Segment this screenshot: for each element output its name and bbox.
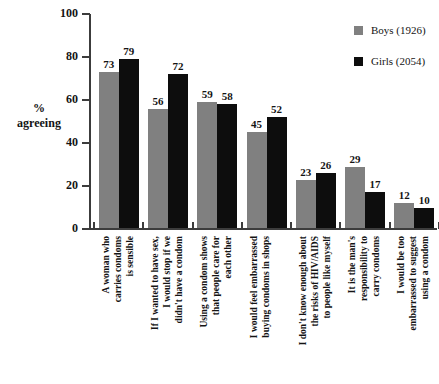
bar-value-label: 79 [115,46,143,57]
bar [267,117,287,229]
bar [394,203,414,229]
y-tick-mark [82,185,90,187]
bar [148,109,168,229]
bar [119,59,139,229]
y-tick-mark [82,99,90,101]
x-tick-mark [389,222,391,229]
y-axis-title: % agreeing [2,101,76,131]
bar [345,167,365,229]
y-tick-label: 0 [44,222,78,234]
x-category-label: I would be too embarrassed to suggest us… [396,236,432,380]
bar-value-label: 26 [312,160,340,171]
y-axis-title-line-2: agreeing [2,116,76,131]
bar-value-label: 17 [361,179,389,190]
bar [247,132,267,229]
x-tick-mark [142,222,144,229]
y-tick-label: 40 [44,136,78,148]
bar-value-label: 72 [164,61,192,72]
x-tick-mark [93,222,95,229]
legend-item[interactable]: Boys (1926) [354,24,439,36]
x-category-label: It is the man's responsibility to carry … [347,236,383,380]
y-tick-mark [82,56,90,58]
x-tick-mark [241,222,243,229]
bar [296,180,316,229]
y-tick-mark [82,13,90,15]
bar-value-label: 10 [410,195,438,206]
x-tick-mark [192,222,194,229]
y-tick-label: 20 [44,179,78,191]
legend-swatch-icon [354,57,363,66]
bar-chart-figure: 100806040200 % agreeing 7379567259584552… [0,0,439,384]
chart-legend: Boys (1926)Girls (2054) [354,24,439,86]
y-tick-label: 100 [44,7,78,19]
bar [197,102,217,229]
x-category-label: Using a condom shows that people care fo… [199,236,235,380]
bar-value-label: 58 [213,91,241,102]
x-tick-mark [290,222,292,229]
x-category-label: I would feel embarrassed buying condoms … [249,236,273,380]
y-tick-label: 80 [44,50,78,62]
bar [217,104,237,229]
bar-value-label: 52 [263,104,291,115]
x-tick-mark [339,222,341,229]
bar [365,192,385,229]
y-tick-mark [82,142,90,144]
x-category-label: I don't know enough about the risks of H… [298,236,334,380]
bar [99,72,119,229]
bar [414,208,434,230]
legend-swatch-icon [354,26,363,35]
legend-label: Boys (1926) [371,24,426,36]
x-axis-line [89,228,437,230]
legend-item[interactable]: Girls (2054) [354,55,439,67]
bar [168,74,188,229]
bar-value-label: 29 [341,154,369,165]
y-axis-title-line-1: % [2,101,76,116]
x-category-label: If I wanted to have sex, I would stop if… [150,236,186,380]
x-category-label: A woman who carries condoms is sensible [101,236,137,380]
legend-label: Girls (2054) [371,55,425,67]
bar [316,173,336,229]
